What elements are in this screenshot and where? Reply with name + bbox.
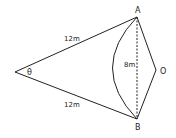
line-o-b: [137, 70, 156, 119]
label-chord: 8m: [124, 61, 135, 69]
label-theta: θ: [27, 68, 32, 77]
label-lower-side: 12m: [64, 101, 80, 109]
label-o: O: [160, 67, 166, 76]
sector-diagram: A B O θ 12m 12m 8m: [0, 0, 176, 138]
label-a: A: [135, 6, 141, 15]
line-a-o: [137, 17, 156, 70]
lower-radius-line: [15, 72, 137, 119]
label-b: B: [135, 123, 141, 132]
upper-radius-line: [15, 17, 137, 72]
label-upper-side: 12m: [64, 35, 80, 43]
